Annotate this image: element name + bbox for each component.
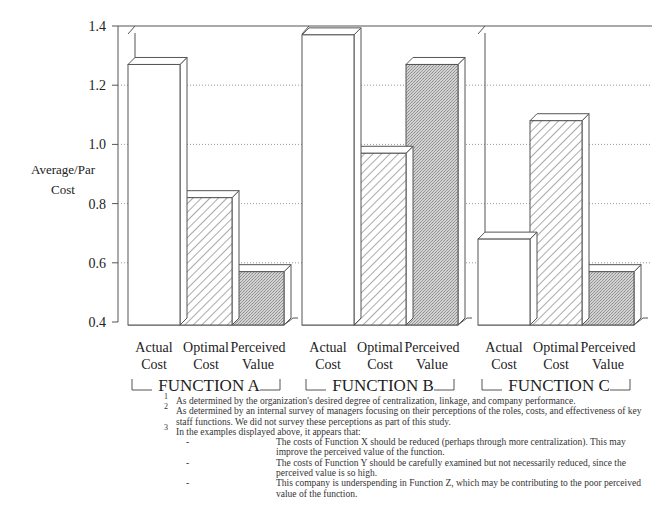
- bar-perceived-value: [582, 265, 641, 325]
- category-label-actual-cost: Cost: [141, 357, 167, 372]
- category-label-perceived-value: Perceived: [230, 340, 285, 355]
- bar-actual-cost: [128, 57, 187, 325]
- bar-perceived-value: [406, 57, 465, 325]
- footnote-text: As determined by the organization's desi…: [176, 396, 576, 406]
- category-labels: ActualCostOptimalCostPerceivedValueFUNCT…: [132, 340, 636, 395]
- y-tick-label: 1.0: [89, 137, 107, 152]
- bar-optimal-cost: [530, 114, 589, 325]
- bar-perceived-value: [232, 265, 291, 325]
- footnote-bullet: - This company is underspending in Funct…: [162, 478, 652, 499]
- bars: [128, 28, 641, 325]
- footnote-3: 3 In the examples displayed above, it ap…: [162, 427, 652, 437]
- footnote-bullet: - The costs of Function Y should be care…: [162, 458, 652, 479]
- y-axis-label-line1: Average/Par: [31, 162, 96, 177]
- bar-chart: 0.40.60.81.01.21.4 ActualCostOptimalCost…: [0, 0, 663, 400]
- category-label-actual-cost: Actual: [309, 340, 346, 355]
- y-tick-label: 1.4: [89, 19, 107, 34]
- footnote-text: In the examples displayed above, it appe…: [176, 427, 361, 437]
- footnote-number: 1: [164, 392, 168, 402]
- footnote-number: 2: [164, 402, 168, 412]
- y-tick-label: 0.8: [89, 197, 107, 212]
- category-label-actual-cost: Cost: [491, 357, 517, 372]
- footnote-2: 2 As determined by an internal survey of…: [162, 406, 652, 427]
- category-label-optimal-cost: Optimal: [533, 340, 579, 355]
- category-label-perceived-value: Value: [592, 357, 624, 372]
- category-label-perceived-value: Perceived: [580, 340, 635, 355]
- category-label-actual-cost: Actual: [135, 340, 172, 355]
- bar-optimal-cost: [180, 191, 239, 325]
- bullet-text: The costs of Function Y should be carefu…: [276, 458, 626, 478]
- category-label-perceived-value: Value: [242, 357, 274, 372]
- y-tick-label: 0.6: [89, 256, 107, 271]
- category-label-optimal-cost: Cost: [543, 357, 569, 372]
- category-label-actual-cost: Cost: [315, 357, 341, 372]
- group-label-function-b: FUNCTION B: [306, 376, 454, 395]
- category-label-optimal-cost: Optimal: [357, 340, 403, 355]
- bar-actual-cost: [478, 232, 537, 325]
- y-tick-label: 1.2: [89, 78, 107, 93]
- bar-optimal-cost: [354, 146, 413, 325]
- group-label-function-c: FUNCTION C: [482, 376, 630, 395]
- bullet-dash: -: [186, 478, 189, 488]
- footnote-bullet: - The costs of Function X should be redu…: [162, 437, 652, 458]
- bullet-dash: -: [186, 437, 189, 447]
- footnote-number: 3: [164, 423, 168, 433]
- category-label-perceived-value: Perceived: [404, 340, 459, 355]
- y-tick-label: 0.4: [89, 315, 107, 330]
- bullet-text: The costs of Function X should be reduce…: [276, 437, 626, 457]
- category-label-optimal-cost: Cost: [367, 357, 393, 372]
- footnote-text: As determined by an internal survey of m…: [176, 406, 641, 426]
- svg-text:FUNCTION B: FUNCTION B: [332, 376, 434, 395]
- bar-actual-cost: [302, 28, 361, 325]
- footnote-1: 1 As determined by the organization's de…: [162, 396, 652, 406]
- bullet-text: This company is underspending in Functio…: [276, 478, 641, 498]
- category-label-perceived-value: Value: [416, 357, 448, 372]
- svg-text:FUNCTION C: FUNCTION C: [508, 376, 610, 395]
- bullet-dash: -: [186, 458, 189, 468]
- category-label-actual-cost: Actual: [485, 340, 522, 355]
- category-label-optimal-cost: Cost: [193, 357, 219, 372]
- category-label-optimal-cost: Optimal: [183, 340, 229, 355]
- footnotes: 1 As determined by the organization's de…: [162, 396, 652, 499]
- svg-text:FUNCTION A: FUNCTION A: [158, 376, 260, 395]
- y-axis-label-line2: Cost: [51, 182, 75, 197]
- group-label-function-a: FUNCTION A: [132, 376, 280, 395]
